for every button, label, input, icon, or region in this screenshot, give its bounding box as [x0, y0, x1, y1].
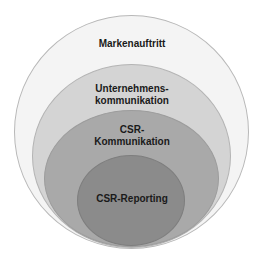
label-csr-reporting: CSR-Reporting	[0, 193, 264, 205]
label-csr-kommunikation-line1: CSR-	[0, 124, 264, 136]
label-unternehmenskommunikation-line1: Unternehmens-	[0, 83, 264, 95]
label-markenauftritt: Markenauftritt	[0, 38, 264, 50]
label-csr-kommunikation-line2: Kommunikation	[0, 136, 264, 148]
label-unternehmenskommunikation-line2: kommunikation	[0, 95, 264, 107]
